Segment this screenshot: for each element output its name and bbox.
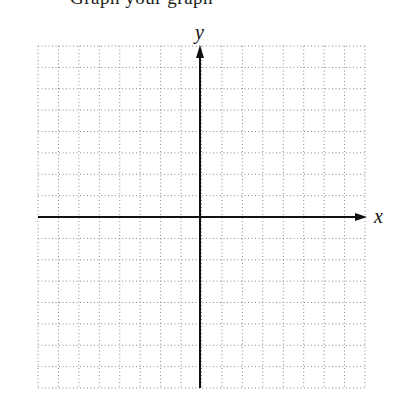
x-axis [38, 213, 367, 221]
y-axis-label: y [195, 22, 204, 42]
coordinate-grid [0, 0, 403, 406]
y-axis-arrow-icon [196, 45, 204, 58]
x-axis-label: x [374, 206, 383, 226]
